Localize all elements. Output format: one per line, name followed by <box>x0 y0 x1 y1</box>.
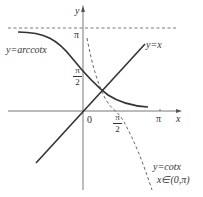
x-axis-label: x <box>176 114 180 124</box>
function-graph-diagram: y x 0 π π 2 π 2 π y=arccotx y=x y=cotx x… <box>0 0 203 197</box>
y-tick-half-pi-label: π 2 <box>73 66 82 87</box>
y-tick-half-pi-num: π <box>75 65 80 75</box>
y-tick-pi-label: π <box>74 30 79 40</box>
arccot-label: y=arccotx <box>6 45 47 55</box>
cot-label: y=cotx <box>153 162 181 172</box>
y-tick-half-pi-den: 2 <box>75 77 80 87</box>
y-equals-x-label: y=x <box>146 40 162 50</box>
y-axis-label: y <box>75 6 79 16</box>
y-axis-arrow-icon <box>81 5 85 12</box>
cot-domain-label: x∈(0,π) <box>157 175 190 185</box>
origin-label: 0 <box>87 115 92 125</box>
x-tick-half-pi-den: 2 <box>115 124 120 134</box>
x-tick-pi-label: π <box>156 114 161 124</box>
x-tick-half-pi-num: π <box>115 112 120 122</box>
x-tick-half-pi-label: π 2 <box>113 113 122 134</box>
